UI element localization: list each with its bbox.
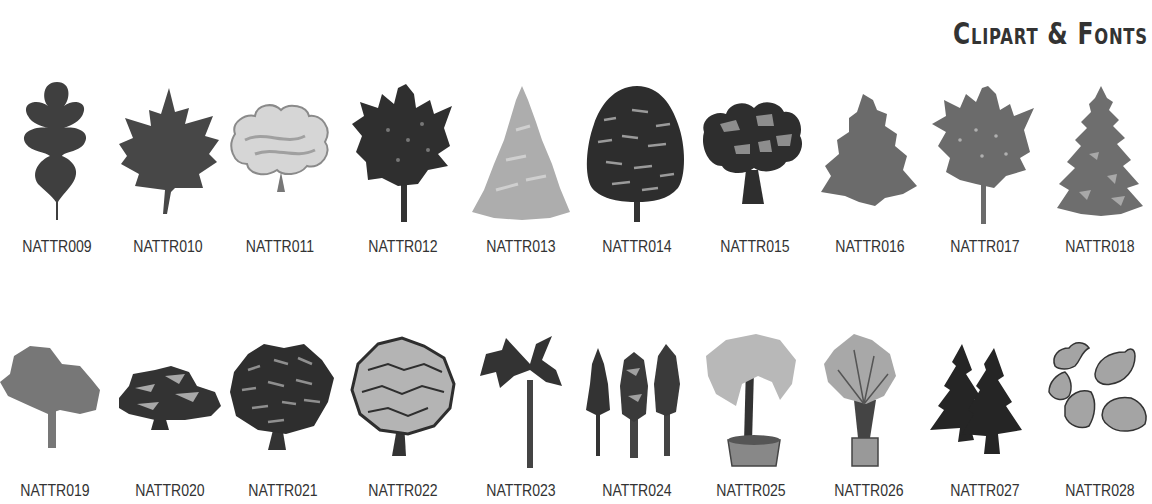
- dark-deciduous-tree-icon: [348, 80, 458, 230]
- item-code-label: NATTR027: [937, 482, 1034, 500]
- redwood-trees-icon: [582, 330, 692, 470]
- palm-tree-icon: [466, 330, 576, 470]
- item-code-label: NATTR024: [589, 482, 686, 500]
- round-bushy-tree-icon: [228, 330, 338, 460]
- item-code-label: NATTR019: [7, 482, 104, 500]
- item-code-label: NATTR009: [9, 238, 106, 256]
- light-conifer-tree-icon: [466, 80, 576, 230]
- scattered-leaves-icon: [1045, 330, 1152, 470]
- wide-cedar-tree-icon: [115, 330, 225, 460]
- light-deciduous-tree-icon: [225, 80, 335, 230]
- item-code-label: NATTR020: [122, 482, 219, 500]
- item-code-label: NATTR010: [120, 238, 217, 256]
- item-code-label: NATTR018: [1052, 238, 1149, 256]
- maple-leaf-icon: [113, 80, 223, 230]
- broad-shade-tree-icon: [0, 330, 110, 460]
- grey-deciduous-tree-icon: [930, 80, 1040, 230]
- item-code-label: NATTR013: [473, 238, 570, 256]
- dense-oval-tree-icon: [582, 80, 692, 230]
- item-code-label: NATTR017: [937, 238, 1034, 256]
- oak-leaf-icon: [2, 80, 112, 230]
- spruce-tree-icon: [1045, 80, 1152, 230]
- item-code-label: NATTR026: [821, 482, 918, 500]
- item-code-label: NATTR012: [355, 238, 452, 256]
- item-code-label: NATTR023: [473, 482, 570, 500]
- item-code-label: NATTR014: [589, 238, 686, 256]
- item-code-label: NATTR016: [822, 238, 919, 256]
- item-code-label: NATTR025: [703, 482, 800, 500]
- item-code-label: NATTR028: [1052, 482, 1149, 500]
- page-title: Clipart & Fonts: [953, 16, 1148, 51]
- item-code-label: NATTR015: [707, 238, 804, 256]
- item-code-label: NATTR021: [235, 482, 332, 500]
- round-outlined-tree-icon: [348, 330, 458, 460]
- item-code-label: NATTR022: [355, 482, 452, 500]
- potted-tree-icon: [696, 330, 806, 470]
- potted-palm-plant-icon: [814, 330, 924, 470]
- spreading-oak-tree-icon: [700, 80, 810, 230]
- fir-tree-silhouette-icon: [815, 80, 925, 230]
- two-pine-trees-icon: [930, 330, 1040, 470]
- item-code-label: NATTR011: [232, 238, 329, 256]
